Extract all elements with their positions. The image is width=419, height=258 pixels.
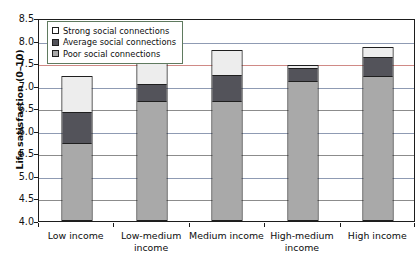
stacked-bar[interactable] [61,76,92,221]
legend-label: Strong social connections [63,27,169,35]
stacked-bar[interactable] [137,60,168,221]
y-tick-label: 8.5 [8,14,34,24]
legend-swatch-average-icon [52,39,59,46]
y-tick-label: 7.0 [8,82,34,92]
legend-swatch-poor-icon [52,50,59,57]
chart-legend: Strong social connectionsAverage social … [47,21,183,64]
x-tick-mark [38,223,39,227]
stacked-bar[interactable] [287,65,318,221]
x-tick-mark [340,223,341,227]
bar-segment-strong [213,51,242,76]
bar-slot [190,20,265,221]
bar-segment-poor [62,144,91,220]
x-tick-label: Low-medium income [113,230,188,253]
chart-figure: Life satisfaction (0–10) 8.58.07.57.06.5… [0,0,419,258]
bar-slot [341,20,415,221]
x-tick-label: Low income [38,230,113,242]
y-tick-label: 4.0 [8,217,34,227]
x-axis: Low incomeLow-medium incomeMedium income… [38,223,415,258]
bar-segment-average [288,68,317,82]
x-tick-label: High-medium income [264,230,339,253]
bar-segment-average [62,112,91,144]
y-tick-label: 8.0 [8,37,34,47]
y-tick-label: 6.0 [8,127,34,137]
bar-slot [265,20,340,221]
bar-segment-poor [213,102,242,220]
x-tick-mark [113,223,114,227]
legend-swatch-strong-icon [52,27,59,34]
bar-segment-poor [364,77,393,220]
bar-segment-poor [288,82,317,220]
legend-label: Average social connections [63,38,176,46]
bar-segment-average [213,75,242,102]
x-tick-label: High income [340,230,415,242]
bar-segment-average [364,57,393,77]
bar-segment-strong [138,61,167,85]
y-tick-label: 7.5 [8,59,34,69]
legend-item: Strong social connections [52,25,176,37]
y-tick-label: 5.0 [8,172,34,182]
stacked-bar[interactable] [212,50,243,221]
bar-segment-strong [62,77,91,113]
y-axis-tick-labels: 8.58.07.57.06.56.05.55.04.54.0 [2,0,34,258]
y-tick-label: 5.5 [8,149,34,159]
legend-label: Poor social connections [63,50,160,58]
x-tick-mark [414,223,415,227]
y-tick-label: 6.5 [8,104,34,114]
stacked-bar[interactable] [363,47,394,221]
legend-item: Average social connections [52,37,176,49]
legend-item: Poor social connections [52,48,176,60]
y-tick-label: 4.5 [8,194,34,204]
bar-segment-average [138,84,167,102]
x-tick-mark [264,223,265,227]
bar-segment-strong [364,48,393,57]
bar-segment-poor [138,102,167,220]
x-tick-mark [189,223,190,227]
x-tick-label: Medium income [189,230,264,242]
